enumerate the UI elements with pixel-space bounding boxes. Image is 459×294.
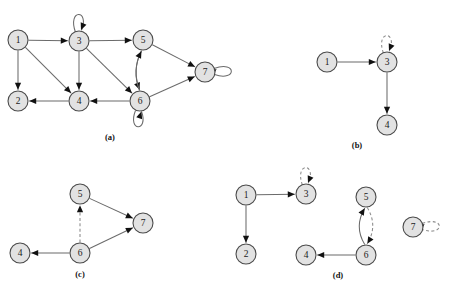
edge-a-7-to-7-selfloop <box>214 67 231 77</box>
edge-c-6-to-4-arrowhead <box>31 250 38 256</box>
edge-c-5-to-7 <box>90 198 133 218</box>
node-label: 2 <box>244 249 249 259</box>
node-label: 1 <box>244 190 249 200</box>
edge-b-1-to-3-arrowhead <box>369 59 376 65</box>
node-label: 3 <box>385 57 390 67</box>
figure-page: 123456713457461324567 (a)(b)(c)(d) <box>0 0 459 294</box>
node-d-2[interactable]: 2 <box>236 244 256 264</box>
node-b-3[interactable]: 3 <box>377 52 397 72</box>
edge-d-3-to-3-arrowhead <box>308 175 314 183</box>
edge-d-5-to-6-arrowhead <box>367 236 373 244</box>
node-d-3[interactable]: 3 <box>296 184 316 204</box>
edge-a-1-to-2-arrowhead <box>15 83 21 90</box>
node-label: 2 <box>16 96 21 106</box>
panel-caption-c: (c) <box>75 269 85 279</box>
node-label: 4 <box>304 250 309 260</box>
node-b-4[interactable]: 4 <box>377 115 397 135</box>
node-d-5[interactable]: 5 <box>356 187 376 207</box>
node-a-1[interactable]: 1 <box>8 30 28 50</box>
edge-a-6-to-7 <box>150 77 195 97</box>
edge-b-3-to-3-arrowhead <box>389 43 395 51</box>
node-label: 7 <box>141 218 146 228</box>
node-a-4[interactable]: 4 <box>69 91 89 111</box>
node-label: 3 <box>77 36 82 46</box>
node-label: 1 <box>325 57 330 67</box>
node-d-4[interactable]: 4 <box>296 245 316 265</box>
edge-a-3-to-5-arrowhead <box>125 37 132 43</box>
edge-a-3-to-4-arrowhead <box>76 83 82 90</box>
edge-d-6-to-4-arrowhead <box>317 252 324 258</box>
edge-a-4-to-2-arrowhead <box>29 98 36 104</box>
panel-caption-d: (d) <box>333 270 344 280</box>
edge-a-1-to-4 <box>25 47 71 93</box>
captions-layer: (a)(b)(c)(d) <box>75 132 362 280</box>
edge-c-6-to-7 <box>89 228 132 249</box>
edge-b-3-to-4-arrowhead <box>384 107 390 114</box>
panel-caption-a: (a) <box>105 132 115 142</box>
node-label: 7 <box>411 222 416 232</box>
node-label: 1 <box>16 35 21 45</box>
edge-d-1-to-2-arrowhead <box>243 236 249 243</box>
edge-a-1-to-3-arrowhead <box>61 38 68 44</box>
node-c-4[interactable]: 4 <box>10 243 30 263</box>
edge-c-6-to-5-arrowhead <box>77 205 83 212</box>
node-label: 5 <box>364 192 369 202</box>
node-d-1[interactable]: 1 <box>236 185 256 205</box>
node-c-6[interactable]: 6 <box>70 243 90 263</box>
node-a-3[interactable]: 3 <box>69 31 89 51</box>
edge-d-7-to-7-selfloop <box>422 222 439 232</box>
node-a-7[interactable]: 7 <box>195 62 215 82</box>
edge-a-6-to-6-arrowhead <box>136 112 142 120</box>
edge-a-6-to-4-arrowhead <box>90 98 97 104</box>
node-d-6[interactable]: 6 <box>356 245 376 265</box>
edge-a-3-to-3-arrowhead <box>81 22 87 30</box>
panel-caption-b: (b) <box>352 140 363 150</box>
edge-a-5-to-7 <box>152 45 195 67</box>
node-a-6[interactable]: 6 <box>130 91 150 111</box>
node-label: 5 <box>141 35 146 45</box>
node-label: 7 <box>203 67 208 77</box>
node-label: 6 <box>78 248 83 258</box>
node-a-5[interactable]: 5 <box>133 30 153 50</box>
node-d-7[interactable]: 7 <box>403 217 423 237</box>
node-b-1[interactable]: 1 <box>317 52 337 72</box>
node-a-2[interactable]: 2 <box>8 91 28 111</box>
node-label: 4 <box>77 96 82 106</box>
edge-d-1-to-3-arrowhead <box>288 191 295 197</box>
node-label: 5 <box>78 189 83 199</box>
node-c-7[interactable]: 7 <box>133 213 153 233</box>
node-label: 4 <box>385 120 390 130</box>
node-c-5[interactable]: 5 <box>70 184 90 204</box>
node-label: 4 <box>18 248 23 258</box>
edge-a-3-to-6 <box>86 48 132 93</box>
node-label: 3 <box>304 189 309 199</box>
node-label: 6 <box>364 250 369 260</box>
graph-figure-canvas: 123456713457461324567 (a)(b)(c)(d) <box>0 0 459 294</box>
node-label: 6 <box>138 96 143 106</box>
